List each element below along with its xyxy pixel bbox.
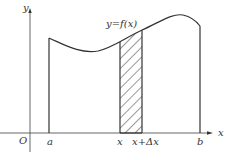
curve-label: y=f(x) <box>105 18 137 29</box>
x-plus-dx-label: x+Δx <box>132 136 159 147</box>
hatched-strip <box>120 25 142 133</box>
y-axis-label: y <box>22 2 29 13</box>
x-label: x <box>117 136 123 147</box>
b-label: b <box>197 136 203 147</box>
origin-label: O <box>19 135 27 146</box>
y-axis <box>28 8 31 152</box>
x-axis-arrow-icon <box>207 131 213 134</box>
a-label: a <box>47 136 53 147</box>
x-axis <box>0 131 213 134</box>
x-axis-label: x <box>218 127 224 138</box>
y-axis-arrow-icon <box>28 8 31 13</box>
diagram-canvas: y x O a x x+Δx b y=f(x) <box>0 0 226 160</box>
